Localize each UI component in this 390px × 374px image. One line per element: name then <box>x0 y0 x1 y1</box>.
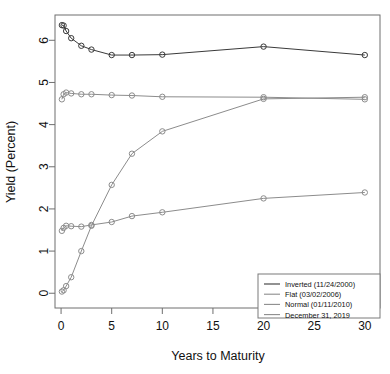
x-tick-label: 15 <box>206 319 220 333</box>
y-tick-label: 2 <box>37 205 51 212</box>
series-2 <box>59 95 367 295</box>
x-tick-label: 0 <box>58 319 65 333</box>
series-container <box>59 22 367 294</box>
yield-curve-chart: 051015202530 0123456 Years to Maturity Y… <box>0 0 390 374</box>
x-tick-label: 30 <box>358 319 372 333</box>
y-tick-label: 5 <box>37 79 51 86</box>
series-3 <box>59 190 367 234</box>
y-tick-label: 4 <box>37 121 51 128</box>
series-1 <box>59 90 367 102</box>
series-0 <box>59 22 367 57</box>
y-tick-label: 3 <box>37 163 51 170</box>
y-tick-label: 0 <box>37 290 51 297</box>
x-tick-label: 10 <box>156 319 170 333</box>
x-tick-label: 5 <box>108 319 115 333</box>
y-tick-label: 6 <box>37 37 51 44</box>
y-axis-title: Yield (Percent) <box>4 121 18 203</box>
series-line <box>62 25 365 55</box>
y-axis-ticks: 0123456 <box>37 37 55 297</box>
chart-legend: Inverted (11/24/2000)Flat (03/02/2006)No… <box>258 274 380 320</box>
series-line <box>62 192 365 230</box>
chart-canvas: 051015202530 0123456 Years to Maturity Y… <box>0 0 390 374</box>
y-tick-label: 1 <box>37 247 51 254</box>
x-tick-label: 25 <box>308 319 322 333</box>
x-axis-title: Years to Maturity <box>171 349 265 363</box>
legend-label: Flat (03/02/2006) <box>285 290 341 299</box>
series-line <box>62 97 365 291</box>
legend-label: Normal (01/11/2010) <box>285 300 352 309</box>
legend-label: Inverted (11/24/2000) <box>285 280 355 289</box>
x-tick-label: 20 <box>257 319 271 333</box>
legend-label: December 31, 2019 <box>285 311 350 320</box>
plot-frame <box>55 15 380 308</box>
